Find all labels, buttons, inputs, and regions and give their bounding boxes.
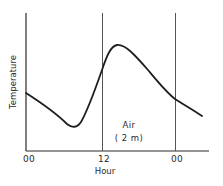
annotation-height: ( 2 m) [115, 134, 144, 143]
x-axis-label: Hour [95, 167, 115, 176]
y-axis-label: Temperature [9, 55, 18, 109]
x-tick-label-00-start: 00 [23, 155, 35, 164]
annotation-air: Air [122, 121, 135, 130]
temperature-chart: 00 12 00 Hour Temperature Air ( 2 m) [0, 0, 223, 186]
x-tick-label-00-end: 00 [171, 155, 183, 164]
x-tick-label-12: 12 [98, 155, 110, 164]
